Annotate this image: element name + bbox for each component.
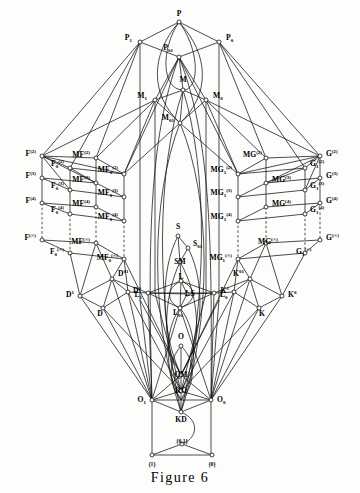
node-label-P0: P0 (226, 33, 234, 43)
lattice-node-MF4[interactable] (94, 205, 98, 209)
lattice-node-M1[interactable] (153, 98, 157, 102)
node-label-F03: F0(3) (51, 181, 64, 191)
lattice-node-S[interactable] (176, 234, 180, 238)
lattice-node-F2[interactable] (40, 154, 44, 158)
node-label-KD: KD (175, 415, 187, 424)
lattice-node-O0[interactable] (209, 398, 213, 402)
lattice-node-MF0inf[interactable] (122, 257, 126, 261)
lattice-node-Ginf[interactable] (318, 238, 322, 242)
node-label-M1: M1 (137, 91, 147, 101)
lattice-node-F3[interactable] (40, 176, 44, 180)
lattice-node-MF02[interactable] (122, 172, 126, 176)
lattice-node-MG1inf[interactable] (236, 257, 240, 261)
lattice-node-MG3[interactable] (264, 181, 268, 185)
lattice-node-M0[interactable] (204, 98, 208, 102)
lattice-diagram-svg: PP1P0P01MM1M0M01F(2)F(3)F(4)F(∞)F0(2)F0(… (0, 0, 360, 493)
lattice-node-KD[interactable] (179, 410, 183, 414)
node-label-MFinf: MF(∞) (71, 237, 90, 246)
lattice-node-P1[interactable] (138, 40, 142, 44)
lattice-node-G2[interactable] (318, 154, 322, 158)
lattice-node-G14[interactable] (303, 212, 307, 216)
lattice-node-D0[interactable] (126, 290, 130, 294)
lattice-node-D1[interactable] (78, 294, 82, 298)
lattice-node-L01[interactable] (178, 306, 182, 310)
lattice-node-F04[interactable] (68, 212, 72, 216)
lattice-node-P0[interactable] (217, 40, 221, 44)
lattice-node-K0[interactable] (280, 294, 284, 298)
lattice-node-L0[interactable] (212, 291, 216, 295)
node-label-F3: F(3) (26, 171, 37, 180)
node-label-LS: LS (185, 289, 194, 298)
node-label-G3: G(3) (326, 171, 338, 180)
lattice-node-M[interactable] (181, 88, 185, 92)
node-label-D: D (97, 309, 103, 318)
node-label-K0: K0 (288, 290, 297, 299)
lattice-node-MF2[interactable] (94, 156, 98, 160)
lattice-node-L1[interactable] (146, 291, 150, 295)
lattice-node-MF04[interactable] (122, 219, 126, 223)
lattice-node-G3[interactable] (318, 176, 322, 180)
lattice-node-K1[interactable] (232, 290, 236, 294)
lattice-node-M01[interactable] (178, 121, 182, 125)
node-label-MG1inf: MG1(∞) (210, 253, 233, 263)
lattice-node-P[interactable] (177, 20, 181, 24)
lattice-node-MG2[interactable] (264, 156, 268, 160)
lattice-node-MF03[interactable] (122, 195, 126, 199)
lattice-node-O1[interactable] (150, 398, 154, 402)
node-label-MG13: MG1(3) (211, 188, 233, 198)
lattice-node-F0inf[interactable] (68, 251, 72, 255)
lattice-node-F03[interactable] (68, 188, 72, 192)
node-label-MG12: MG1(2) (211, 165, 233, 175)
lattice-node-MG4[interactable] (264, 205, 268, 209)
lattice-node-MG13[interactable] (236, 195, 240, 199)
node-label-M0: M0 (213, 91, 223, 101)
lattice-node-F02[interactable] (68, 166, 72, 170)
lattice-node-F4[interactable] (40, 201, 44, 205)
node-label-G14: G1(4) (310, 205, 325, 215)
lattice-node-G13[interactable] (303, 188, 307, 192)
lattice-node-MG12[interactable] (236, 172, 240, 176)
node-label-MF03: MF0(3) (98, 188, 118, 198)
node-label-L: L (178, 272, 183, 281)
node-label-MG4: MG(4) (272, 199, 291, 208)
node-label-SM: SM (174, 257, 185, 266)
lattice-node-T0[interactable] (210, 453, 214, 457)
node-label-MG2: MG(2) (243, 150, 262, 159)
node-label-O1: O1 (138, 395, 147, 405)
node-label-K: K (259, 309, 265, 318)
node-label-P1: P1 (125, 33, 133, 43)
lattice-node-T1[interactable] (150, 453, 154, 457)
node-label-M: M (179, 75, 186, 84)
node-label-F02: F0(2) (51, 159, 64, 169)
node-label-G2: G(2) (326, 149, 338, 158)
lattice-node-K01[interactable] (248, 277, 252, 281)
node-label-G1inf: G1(∞) (296, 247, 312, 257)
lattice-node-G12[interactable] (303, 166, 307, 170)
node-label-MF04: MF0(4) (98, 212, 118, 222)
node-label-O0: O0 (217, 395, 226, 405)
figure-canvas: PP1P0P01MM1M0M01F(2)F(3)F(4)F(∞)F0(2)F0(… (0, 0, 360, 493)
node-label-G12: G1(2) (310, 159, 325, 169)
lattice-node-MFinf[interactable] (94, 241, 98, 245)
node-label-MF02: MF0(2) (98, 165, 118, 175)
node-label-KO: KO (175, 386, 187, 395)
node-label-MGinf: MG(∞) (258, 237, 278, 246)
node-label-T01: {0,1} (176, 438, 188, 445)
node-label-T0: {0} (208, 461, 216, 468)
lattice-node-MG14[interactable] (236, 219, 240, 223)
node-label-G13: G1(3) (310, 181, 325, 191)
node-label-MG3: MG(3) (272, 175, 291, 184)
node-label-D1: D1 (66, 290, 74, 299)
node-label-O: O (178, 332, 184, 341)
node-label-P: P (177, 9, 182, 18)
node-label-F04: F0(4) (51, 205, 64, 215)
lattice-node-S01[interactable] (186, 246, 190, 250)
node-label-K01: K01 (233, 269, 244, 278)
lattice-node-O[interactable] (179, 344, 183, 348)
node-label-QM: QM (174, 370, 187, 379)
lattice-node-P01[interactable] (177, 55, 181, 59)
lattice-node-D01[interactable] (110, 277, 114, 281)
lattice-node-MF3[interactable] (94, 181, 98, 185)
node-label-Finf: F(∞) (24, 233, 36, 242)
lattice-node-Finf[interactable] (40, 238, 44, 242)
